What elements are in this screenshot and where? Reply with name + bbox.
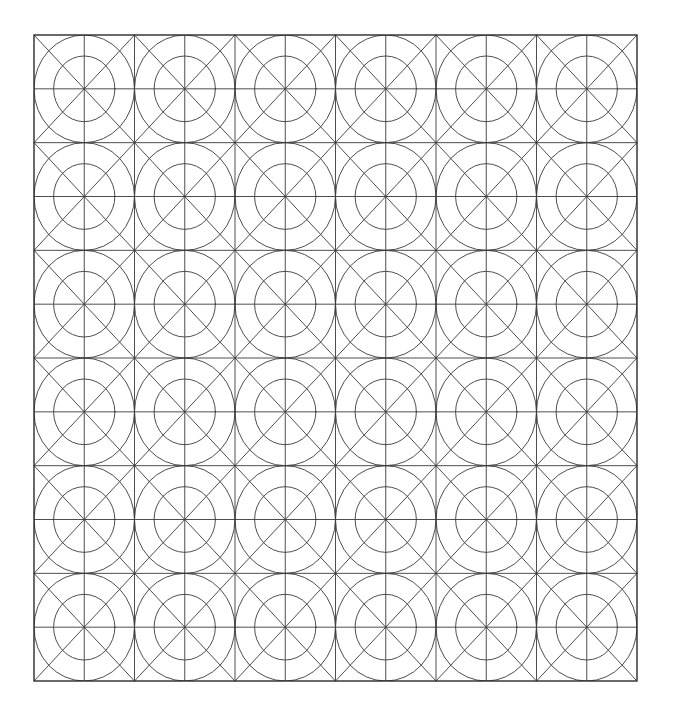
pattern-cell	[34, 35, 135, 143]
geometric-pattern-canvas: Geometric grid pattern	[0, 0, 675, 716]
pattern-cell	[34, 358, 135, 466]
pattern-cell	[336, 573, 437, 681]
pattern-cell	[537, 35, 638, 143]
pattern-cell	[135, 358, 236, 466]
pattern-cell	[235, 250, 336, 358]
pattern-cell	[436, 466, 537, 574]
pattern-cell	[336, 466, 437, 574]
pattern-cell	[34, 573, 135, 681]
pattern-cell	[235, 466, 336, 574]
pattern-figure: Geometric grid pattern	[0, 0, 675, 716]
pattern-cell	[235, 573, 336, 681]
pattern-cell	[336, 250, 437, 358]
pattern-cell	[135, 573, 236, 681]
pattern-cell	[135, 35, 236, 143]
pattern-cell	[135, 250, 236, 358]
pattern-cell	[135, 143, 236, 251]
pattern-cell	[336, 358, 437, 466]
pattern-cell	[436, 250, 537, 358]
pattern-cell	[135, 466, 236, 574]
pattern-cell	[537, 573, 638, 681]
pattern-cell	[34, 250, 135, 358]
pattern-cell	[336, 143, 437, 251]
pattern-cell	[436, 358, 537, 466]
pattern-cell	[34, 143, 135, 251]
pattern-cell	[537, 358, 638, 466]
pattern-cell	[537, 143, 638, 251]
pattern-cell	[436, 35, 537, 143]
pattern-cell	[436, 143, 537, 251]
pattern-cell	[336, 35, 437, 143]
pattern-cell	[34, 466, 135, 574]
pattern-cell	[537, 250, 638, 358]
pattern-cell	[235, 35, 336, 143]
pattern-cell	[436, 573, 537, 681]
pattern-cell	[537, 466, 638, 574]
pattern-cell	[235, 358, 336, 466]
pattern-cell	[235, 143, 336, 251]
